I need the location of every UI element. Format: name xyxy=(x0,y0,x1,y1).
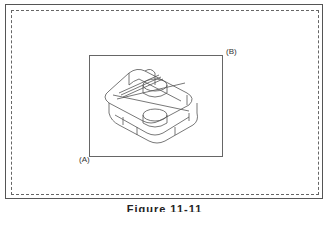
point-b-label: (B) xyxy=(226,47,237,56)
isometric-part-icon xyxy=(89,55,223,157)
figure-caption: Figure 11-11 xyxy=(0,203,329,212)
point-a-label: (A) xyxy=(79,155,90,164)
